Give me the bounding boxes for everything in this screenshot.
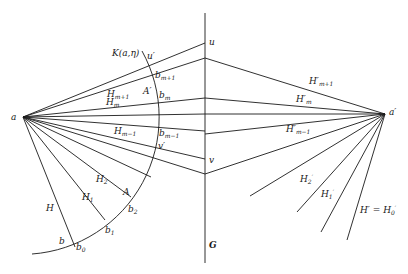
label-Hp-m-plus-1: H′m+1 — [309, 77, 333, 87]
label-Hp-eq-H0: H′ = H0′ — [360, 205, 396, 216]
label-bm-plus-1: bm+1 — [155, 71, 175, 81]
label-b0: b0 — [76, 243, 86, 253]
label-Hp-m-minus-1: H′m−1 — [286, 125, 310, 135]
label-H2: H2 — [96, 175, 108, 185]
label-Hp-m: H′m — [296, 95, 312, 105]
label-Hm: Hm — [106, 98, 120, 108]
diagram-lines — [0, 0, 408, 274]
label-Hp-1: H1′ — [321, 189, 334, 200]
label-b1: b1 — [105, 226, 115, 236]
line-H3 — [23, 117, 151, 177]
label-b2: b2 — [128, 205, 138, 215]
label-bm: bm — [159, 91, 170, 101]
label-Hp-2: H2′ — [300, 174, 313, 185]
label-Hm-minus-1: Hm−1 — [114, 127, 136, 137]
label-b: b — [59, 237, 65, 246]
label-H: H — [46, 204, 54, 213]
label-u-prime: u′ — [147, 52, 155, 61]
line-Hp-0 — [347, 114, 385, 240]
label-G-line: G — [209, 241, 217, 250]
label-H1: H1 — [82, 193, 94, 203]
label-bm-minus-1: bm−1 — [159, 129, 179, 139]
label-u: u — [209, 38, 215, 47]
label-v: v — [209, 156, 214, 165]
diagram-canvas: a a′ u v u′ v′ b b0 b1 b2 bm bm+1 bm−1 G… — [0, 0, 408, 274]
label-a: a — [11, 113, 16, 122]
line-Hm-plus-1 — [23, 58, 205, 117]
label-v-prime: v′ — [158, 142, 165, 151]
label-a-prime: a′ — [389, 108, 396, 117]
label-arc-K: K(a,η) — [112, 49, 139, 58]
label-region-A: A — [123, 188, 130, 197]
label-region-A-prime: A′ — [143, 87, 152, 96]
